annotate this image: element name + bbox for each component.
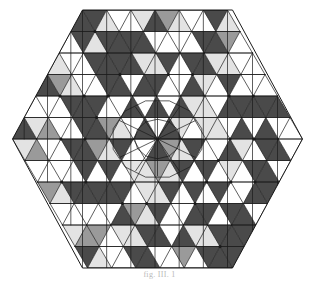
lattice-node-dot bbox=[228, 137, 231, 140]
lattice-node-dot bbox=[107, 94, 110, 97]
lattice-node-dot bbox=[145, 202, 148, 205]
lattice-node-dot bbox=[83, 137, 86, 140]
figure-caption: fig. III. 1 bbox=[0, 270, 319, 280]
hexagonal-tessellation-diagram bbox=[0, 0, 319, 286]
lattice-node-dot bbox=[118, 73, 121, 76]
lattice-node-dot bbox=[156, 137, 159, 140]
lattice-node-dot bbox=[83, 94, 86, 97]
lattice-node-dot bbox=[60, 180, 63, 183]
lattice-node-dot bbox=[93, 30, 96, 33]
lattice-node-dot bbox=[253, 180, 256, 183]
lattice-node-dot bbox=[229, 180, 232, 183]
lattice-node-dot bbox=[167, 73, 170, 76]
lattice-node-dot bbox=[58, 94, 61, 97]
lattice-node-dot bbox=[205, 180, 208, 183]
lattice-node-dot bbox=[59, 137, 62, 140]
lattice-node-dot bbox=[228, 94, 231, 97]
lattice-node-dot bbox=[121, 202, 124, 205]
lattice-node-dot bbox=[95, 116, 98, 119]
lattice-node-dot bbox=[252, 94, 255, 97]
lattice-node-dot bbox=[193, 202, 196, 205]
lattice-node-dot bbox=[84, 180, 87, 183]
lattice-node-dot bbox=[218, 245, 221, 248]
lattice-node-dot bbox=[253, 137, 256, 140]
lattice-node-dot bbox=[217, 159, 220, 162]
lattice-node-dot bbox=[191, 73, 194, 76]
figure-container: fig. III. 1 bbox=[0, 0, 319, 286]
